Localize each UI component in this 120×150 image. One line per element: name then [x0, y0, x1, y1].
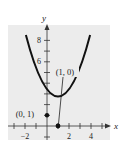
x-axis-label: x	[113, 121, 118, 131]
parabola-graph: −2 2 4 x 8 6 y (1, 0) (0, 1)	[0, 0, 120, 150]
y-axis-label: y	[41, 13, 46, 23]
x-tick-label: 4	[89, 132, 93, 141]
point-label-1-0: (1, 0)	[56, 67, 75, 77]
x-tick-label: −2	[21, 132, 30, 141]
y-tick-label: 6	[37, 57, 41, 66]
point-label-0-1: (0, 1)	[16, 109, 35, 119]
point-1-0-marker	[56, 124, 61, 129]
y-tick-label: 8	[37, 36, 41, 45]
point-0-1-marker	[45, 113, 49, 117]
x-tick-label: 2	[67, 132, 71, 141]
